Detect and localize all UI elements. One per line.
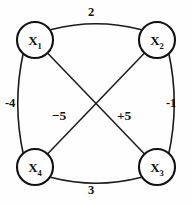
edge-weight-x1-x4: -4: [5, 97, 15, 110]
node-x1-sub: 1: [38, 41, 42, 51]
edge-x1-x4: [18, 52, 24, 155]
graph-canvas: X1 X2 X3 X4: [0, 0, 192, 205]
edge-weight-x4-x3: 3: [88, 184, 94, 197]
edge-weight-x1-x3: +5: [117, 109, 131, 123]
edge-x4-x3: [52, 178, 141, 184]
edge-weight-x2-x3: -1: [166, 97, 176, 110]
node-x2-sub: 2: [160, 41, 164, 51]
node-x4-sub: 4: [38, 168, 43, 178]
weighted-graph-figure: X1 X2 X3 X4 2 -4 -1 −5 +5 3: [0, 0, 192, 205]
edge-weight-x1-x2: 2: [88, 6, 94, 19]
node-x3-sub: 3: [160, 168, 164, 178]
edge-x1-x2: [52, 24, 141, 30]
edge-weight-x2-x4: −5: [52, 109, 66, 123]
